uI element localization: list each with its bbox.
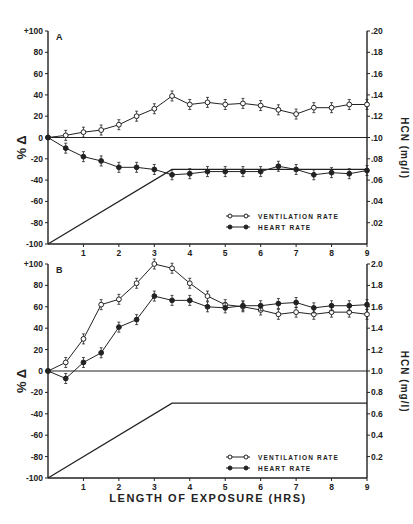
ventilation-rate-point bbox=[365, 312, 370, 317]
heart-rate-point bbox=[63, 376, 68, 381]
ventilation-rate-point bbox=[134, 281, 139, 286]
x-tick-label: 8 bbox=[329, 248, 334, 258]
x-tick-label: 5 bbox=[223, 482, 228, 492]
panel-a: +100806040200-20-40-60-80-100.20.18.16.1… bbox=[14, 26, 410, 258]
x-tick-label: 1 bbox=[81, 482, 86, 492]
ventilation-rate-point bbox=[170, 94, 175, 99]
heart-rate-point bbox=[241, 303, 246, 308]
x-tick-label: 8 bbox=[329, 482, 334, 492]
y2-tick-label: .06 bbox=[371, 175, 383, 185]
x-tick-label: 5 bbox=[223, 248, 228, 258]
heart-rate-point bbox=[116, 325, 121, 330]
ventilation-rate-point bbox=[63, 133, 68, 138]
legend-marker-heart bbox=[244, 466, 248, 470]
y2-tick-label: 0.4 bbox=[371, 430, 383, 440]
x-tick-label: 1 bbox=[81, 248, 86, 258]
ventilation-rate-point bbox=[365, 102, 370, 107]
y-tick-label: -100 bbox=[26, 473, 43, 483]
heart-rate-point bbox=[63, 146, 68, 151]
y2-tick-label: 1.8 bbox=[371, 280, 383, 290]
ventilation-rate-point bbox=[116, 297, 121, 302]
y-tick-label: 40 bbox=[34, 323, 44, 333]
ventilation-rate-point bbox=[205, 100, 210, 105]
y-tick-label: 80 bbox=[34, 280, 44, 290]
ventilation-rate-point bbox=[152, 106, 157, 111]
ventilation-rate-point bbox=[99, 128, 104, 133]
legend-label-ventilation: VENTILATION RATE bbox=[258, 213, 339, 220]
ventilation-rate-point bbox=[258, 103, 263, 108]
heart-rate-point bbox=[365, 168, 370, 173]
y-tick-label: 20 bbox=[34, 345, 44, 355]
legend-label-heart: HEART RATE bbox=[258, 224, 311, 231]
y2-tick-label: .20 bbox=[371, 26, 383, 36]
x-tick-label: 7 bbox=[294, 248, 299, 258]
heart-rate-point bbox=[134, 165, 139, 170]
y2-tick-label: .18 bbox=[371, 47, 383, 57]
legend-label-ventilation: VENTILATION RATE bbox=[258, 454, 339, 461]
ventilation-rate-point bbox=[223, 102, 228, 107]
ventilation-rate-point bbox=[276, 107, 281, 112]
y-tick-label: -60 bbox=[31, 196, 44, 206]
x-tick-label: 4 bbox=[187, 482, 192, 492]
heart-rate-point bbox=[311, 172, 316, 177]
y2-axis-title: HCN (mg/l) bbox=[399, 117, 410, 179]
ventilation-rate-point bbox=[294, 310, 299, 315]
heart-rate-point bbox=[294, 300, 299, 305]
x-tick-label: 7 bbox=[294, 482, 299, 492]
y-tick-label: 0 bbox=[38, 366, 43, 376]
y2-tick-label: .16 bbox=[371, 69, 383, 79]
heart-rate-point bbox=[258, 169, 263, 174]
x-tick-label: 2 bbox=[117, 248, 122, 258]
legend-marker-ventilation bbox=[244, 455, 248, 459]
panel-label: A bbox=[56, 32, 63, 42]
heart-rate-point bbox=[329, 170, 334, 175]
x-tick-label: 6 bbox=[258, 248, 263, 258]
y-tick-label: 0 bbox=[38, 133, 43, 143]
heart-rate-point bbox=[81, 360, 86, 365]
y-tick-label: -20 bbox=[31, 154, 44, 164]
legend-label-heart: HEART RATE bbox=[258, 465, 311, 472]
y-axis-title: % Δ bbox=[14, 135, 29, 159]
heart-rate-point bbox=[81, 154, 86, 159]
y-tick-label: -20 bbox=[31, 387, 44, 397]
x-tick-label: 9 bbox=[365, 248, 370, 258]
panel-b: +100806040200-20-40-60-80-1002.01.81.61.… bbox=[14, 259, 410, 492]
y2-tick-label: 1.0 bbox=[371, 366, 383, 376]
panel-label: B bbox=[56, 265, 63, 275]
y-axis-title: % Δ bbox=[14, 369, 29, 393]
heart-rate-point bbox=[170, 298, 175, 303]
heart-rate-point bbox=[187, 298, 192, 303]
heart-rate-point bbox=[205, 304, 210, 309]
x-axis-title: LENGTH OF EXPOSURE (HRS) bbox=[109, 492, 306, 504]
ventilation-rate-point bbox=[347, 102, 352, 107]
y-tick-label: -40 bbox=[31, 409, 44, 419]
y-tick-label: +100 bbox=[24, 26, 43, 36]
y-tick-label: 60 bbox=[34, 302, 44, 312]
y2-tick-label: .14 bbox=[371, 90, 383, 100]
ventilation-rate-point bbox=[241, 101, 246, 106]
heart-rate-point bbox=[329, 303, 334, 308]
ventilation-rate-point bbox=[187, 281, 192, 286]
heart-rate-point bbox=[276, 164, 281, 169]
heart-rate-point bbox=[152, 167, 157, 172]
x-tick-label: 4 bbox=[187, 248, 192, 258]
y2-axis-title: HCN (mg/l) bbox=[399, 351, 410, 413]
ventilation-rate-point bbox=[187, 102, 192, 107]
heart-rate-point bbox=[347, 303, 352, 308]
hcn-concentration-line bbox=[48, 403, 367, 478]
heart-rate-point bbox=[276, 301, 281, 306]
heart-rate-point bbox=[294, 167, 299, 172]
ventilation-rate-point bbox=[170, 266, 175, 271]
x-tick-label: 9 bbox=[365, 482, 370, 492]
y2-tick-label: 0.2 bbox=[371, 452, 383, 462]
y-tick-label: 20 bbox=[34, 111, 44, 121]
heart-rate-point bbox=[46, 135, 51, 140]
y-tick-label: -40 bbox=[31, 175, 44, 185]
legend-marker-ventilation bbox=[244, 214, 248, 218]
heart-rate-point bbox=[311, 305, 316, 310]
y2-tick-label: 1.4 bbox=[371, 323, 383, 333]
y2-tick-label: .02 bbox=[371, 218, 383, 228]
heart-rate-point bbox=[187, 171, 192, 176]
heart-rate-point bbox=[223, 169, 228, 174]
ventilation-rate-point bbox=[294, 112, 299, 117]
